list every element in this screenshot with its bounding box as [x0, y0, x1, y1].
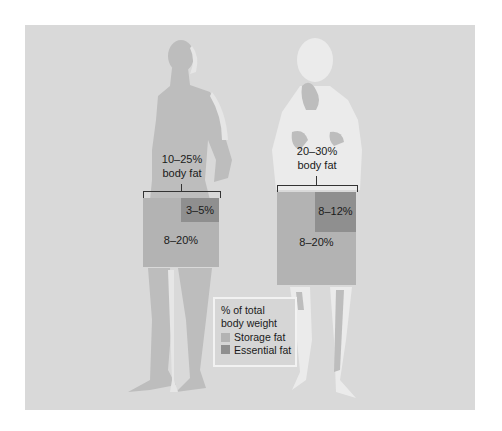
female-essential-fat-label: 8–12%	[315, 205, 356, 217]
legend-title-line1: % of total	[221, 304, 295, 317]
female-body-fat-text: body fat	[277, 158, 357, 172]
female-storage-fat-label: 8–20%	[277, 236, 356, 248]
female-bracket	[277, 185, 358, 192]
male-body-fat-range: 10–25%	[142, 152, 222, 166]
male-storage-fat-label: 8–20%	[143, 234, 219, 246]
legend-label-storage-fat: Storage fat	[234, 331, 285, 344]
legend-item-essential-fat: Essential fat	[221, 344, 295, 357]
male-essential-fat-label: 3–5%	[181, 204, 219, 216]
male-bracket	[143, 191, 221, 198]
storage-fat-swatch-icon	[221, 333, 230, 342]
legend-label-essential-fat: Essential fat	[234, 344, 291, 357]
male-body-fat-caption: 10–25% body fat	[142, 152, 222, 180]
female-body-fat-caption: 20–30% body fat	[277, 144, 357, 172]
legend-item-storage-fat: Storage fat	[221, 331, 295, 344]
female-body-fat-range: 20–30%	[277, 144, 357, 158]
male-body-fat-text: body fat	[142, 166, 222, 180]
legend: % of total body weight Storage fat Essen…	[213, 297, 297, 367]
legend-title-line2: body weight	[221, 317, 295, 330]
essential-fat-swatch-icon	[221, 345, 230, 354]
